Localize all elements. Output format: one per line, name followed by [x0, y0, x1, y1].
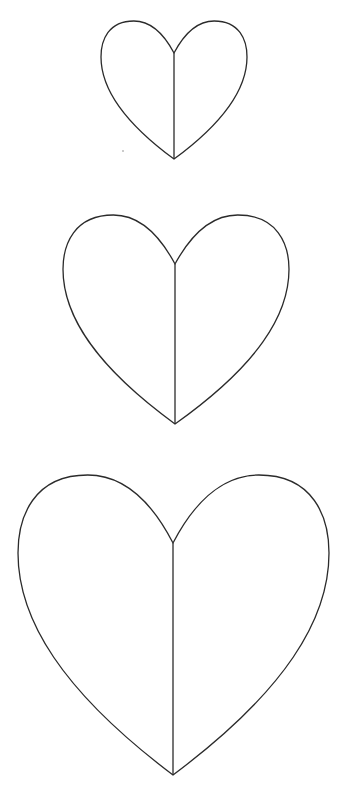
heart-large	[18, 475, 329, 775]
paper-speck	[122, 150, 124, 152]
heart-medium-outline	[63, 215, 289, 424]
heart-template-canvas	[0, 0, 346, 797]
heart-medium	[63, 215, 289, 424]
heart-small	[101, 21, 247, 159]
